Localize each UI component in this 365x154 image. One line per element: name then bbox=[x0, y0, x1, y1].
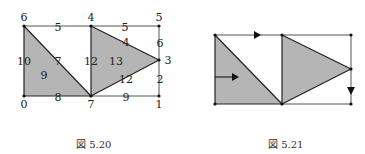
vertex-dot-6 bbox=[22, 24, 25, 27]
edge-label-4-7: 12 bbox=[84, 55, 98, 68]
vertex-dot bbox=[349, 102, 352, 105]
vertex-label-1: 1 bbox=[156, 98, 163, 111]
vertex-dot bbox=[280, 33, 283, 36]
edge-label-5-3: 6 bbox=[157, 37, 164, 50]
edge-label-4-3: 4 bbox=[123, 36, 130, 49]
figure-caption-5-20: 図 5.20 bbox=[76, 136, 111, 151]
arrow-down-icon-right bbox=[347, 87, 355, 95]
shaded-triangle-right bbox=[282, 35, 351, 104]
figure-5-21 bbox=[213, 31, 355, 106]
edge-label-6-7: 7 bbox=[55, 55, 62, 68]
edge-label-7-3: 12 bbox=[119, 73, 133, 86]
vertex-dot bbox=[349, 67, 352, 70]
edge-label-6-4: 5 bbox=[55, 21, 62, 34]
vertex-label-7: 7 bbox=[88, 98, 95, 111]
edge-label-3-1: 2 bbox=[157, 73, 164, 86]
vertex-label-4: 4 bbox=[88, 11, 95, 24]
figure-caption-5-21: 図 5.21 bbox=[268, 136, 303, 151]
vertex-dot bbox=[213, 102, 216, 105]
edge-label-4-5: 5 bbox=[122, 21, 129, 34]
figure-5-20: 6 4 5 3 0 7 1 5 5 4 6 2 10 7 12 12 8 9 9… bbox=[17, 11, 172, 111]
face-label-right: 13 bbox=[109, 55, 123, 68]
vertex-label-5: 5 bbox=[156, 11, 163, 24]
edge-label-6-0: 10 bbox=[17, 55, 31, 68]
arrow-right-icon-top bbox=[254, 31, 261, 39]
diagram-canvas: 6 4 5 3 0 7 1 5 5 4 6 2 10 7 12 12 8 9 9… bbox=[0, 0, 365, 154]
vertex-label-6: 6 bbox=[21, 11, 28, 24]
edge-label-0-7: 8 bbox=[55, 91, 62, 104]
vertex-dot bbox=[349, 33, 352, 36]
vertex-dot-3 bbox=[157, 58, 160, 61]
vertex-dot-5 bbox=[157, 24, 160, 27]
edge-label-7-1: 9 bbox=[123, 91, 130, 104]
vertex-label-0: 0 bbox=[21, 98, 28, 111]
vertex-dot bbox=[213, 33, 216, 36]
face-label-left: 9 bbox=[41, 69, 48, 82]
vertex-label-3: 3 bbox=[165, 54, 172, 67]
vertex-dot bbox=[280, 102, 283, 105]
vertex-dot-4 bbox=[89, 24, 92, 27]
